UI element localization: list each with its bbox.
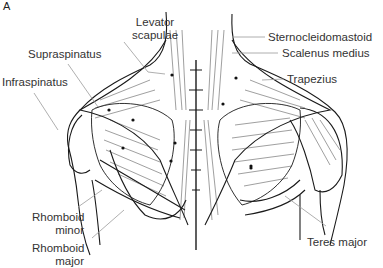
label-line: minor: [32, 224, 84, 237]
label-sternocleidomastoid: Sternocleidomastoid: [268, 31, 372, 44]
label-teres-major: Teres major: [307, 236, 367, 249]
label-line: Rhomboid: [32, 211, 84, 224]
label-supraspinatus: Supraspinatus: [28, 48, 102, 61]
label-infraspinatus: Infraspinatus: [2, 76, 68, 89]
label-scalenus-medius: Scalenus medius: [282, 47, 370, 60]
label-line: Levator: [132, 16, 178, 29]
label-levator-scapulae: Levator scapulae: [132, 16, 178, 42]
label-rhomboid-major: Rhomboid major: [32, 242, 84, 268]
label-trapezius: Trapezius: [287, 73, 337, 86]
label-rhomboid-minor: Rhomboid minor: [32, 211, 84, 237]
label-line: major: [32, 255, 84, 268]
label-line: scapulae: [132, 29, 178, 42]
label-line: Rhomboid: [32, 242, 84, 255]
